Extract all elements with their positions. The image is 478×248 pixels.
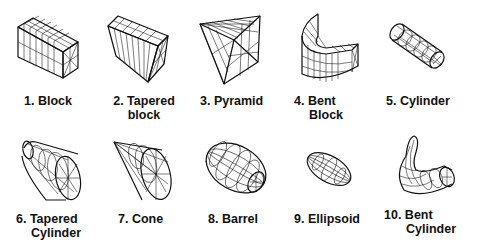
shape-label-line1: 9. Ellipsoid xyxy=(294,212,360,226)
bent-block-wireframe-icon xyxy=(296,10,366,84)
block-wireframe-icon xyxy=(14,14,84,84)
shape-label: 1. Block xyxy=(24,94,72,108)
tapered-cylinder-wireframe-icon xyxy=(18,138,86,200)
barrel-wireframe-icon xyxy=(206,138,272,200)
shape-label: 10. Bent Cylinder xyxy=(384,208,456,236)
shape-label-line1: 8. Barrel xyxy=(208,212,258,226)
shape-label: 3. Pyramid xyxy=(200,94,263,108)
shape-label-line2: Cylinder xyxy=(16,226,81,240)
shape-label-line1: 3. Pyramid xyxy=(200,94,263,108)
shape-label: 2. Tapered block xyxy=(110,94,178,122)
shape-tapered-cylinder: 6. Tapered Cylinder xyxy=(18,138,86,200)
shape-bent-cylinder: 10. Bent Cylinder xyxy=(390,134,460,200)
shape-label-line2: Block xyxy=(294,108,343,122)
shape-label-line1: 4. Bent xyxy=(294,94,336,108)
ellipsoid-wireframe-icon xyxy=(306,148,352,190)
shape-label-line1: 6. Tapered xyxy=(16,212,78,226)
shape-label: 8. Barrel xyxy=(208,212,258,226)
pyramid-wireframe-icon xyxy=(198,12,268,84)
shape-label-line1: 5. Cylinder xyxy=(386,94,450,108)
shape-label-line1: 10. Bent xyxy=(384,208,433,222)
shape-pyramid: 3. Pyramid xyxy=(198,12,268,84)
bent-cylinder-wireframe-icon xyxy=(390,134,460,200)
shape-label: 5. Cylinder xyxy=(386,94,450,108)
tapered-block-wireframe-icon xyxy=(106,12,176,84)
shape-label-line1: 2. Tapered xyxy=(113,94,175,108)
cone-wireframe-icon xyxy=(112,140,178,200)
shape-label: 6. Tapered Cylinder xyxy=(16,212,81,240)
shape-label: 7. Cone xyxy=(118,212,163,226)
shape-label-line2: block xyxy=(110,108,178,122)
shape-label: 4. Bent Block xyxy=(294,94,343,122)
shape-label-line1: 7. Cone xyxy=(118,212,163,226)
shape-label-line2: Cylinder xyxy=(384,222,456,236)
cylinder-wireframe-icon xyxy=(388,18,458,82)
shape-cylinder: 5. Cylinder xyxy=(388,18,458,82)
shape-barrel: 8. Barrel xyxy=(206,138,272,200)
shape-label-line1: 1. Block xyxy=(24,94,72,108)
shape-cone: 7. Cone xyxy=(112,140,178,200)
shape-ellipsoid: 9. Ellipsoid xyxy=(306,148,352,190)
shape-block: 1. Block xyxy=(14,14,84,84)
shape-label: 9. Ellipsoid xyxy=(294,212,360,226)
shape-bent-block: 4. Bent Block xyxy=(296,10,366,84)
shape-tapered-block: 2. Tapered block xyxy=(106,12,176,84)
